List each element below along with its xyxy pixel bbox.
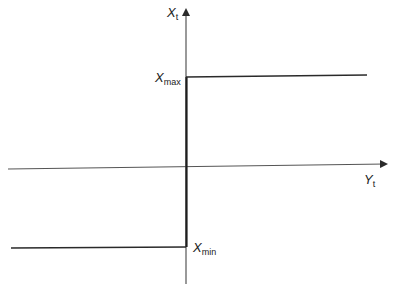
x-max-label: Xmax — [155, 71, 181, 87]
max-level-line — [186, 75, 367, 77]
x-min-label: Xmin — [193, 241, 216, 257]
horizontal-axis-label: Yt — [364, 173, 375, 189]
vertical-axis-label: Xt — [167, 6, 178, 22]
horizontal-axis — [8, 164, 386, 169]
min-level-line — [11, 247, 186, 248]
